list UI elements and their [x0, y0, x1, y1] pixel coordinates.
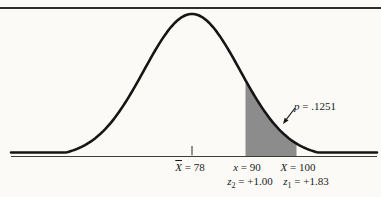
- z-upper-value: = +1.83: [292, 175, 329, 187]
- z-lower-value: = +1.00: [236, 175, 273, 187]
- x-upper-value: = 100: [287, 161, 315, 173]
- mean-symbol: X: [175, 161, 182, 173]
- mean-label: X = 78: [175, 161, 204, 174]
- x-upper-symbol: X: [281, 161, 288, 173]
- x-lower-label: x = 90: [233, 161, 261, 174]
- normal-curve-figure: X = 78 x = 90 X = 100 z2 = +1.00 z1 = +1…: [0, 0, 381, 197]
- x-lower-value: = 90: [238, 161, 261, 173]
- probability-label: p = .1251: [294, 100, 336, 113]
- normal-curve: [11, 14, 377, 152]
- p-value: = .1251: [300, 100, 336, 112]
- x-upper-label: X = 100: [281, 161, 316, 174]
- z-upper-label: z1 = +1.83: [283, 175, 328, 188]
- mean-value: = 78: [182, 161, 205, 173]
- z-lower-label: z2 = +1.00: [227, 175, 272, 188]
- p-arrow-head-icon: [283, 118, 289, 124]
